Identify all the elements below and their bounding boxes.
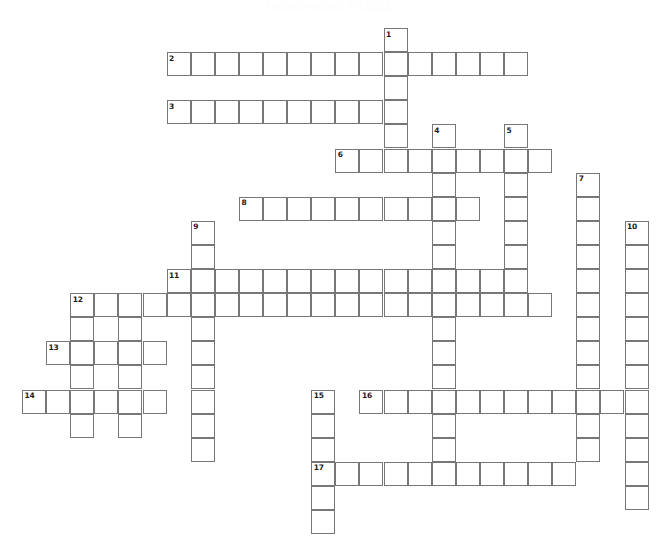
crossword-cell[interactable] xyxy=(335,52,359,76)
crossword-cell[interactable] xyxy=(504,390,528,414)
crossword-cell[interactable] xyxy=(46,390,70,414)
crossword-cell[interactable] xyxy=(408,149,432,173)
crossword-cell[interactable] xyxy=(239,269,263,293)
crossword-cell[interactable] xyxy=(432,173,456,197)
crossword-cell[interactable]: 16 xyxy=(359,390,383,414)
crossword-cell[interactable] xyxy=(287,293,311,317)
crossword-cell[interactable] xyxy=(480,293,504,317)
crossword-cell[interactable] xyxy=(143,293,167,317)
crossword-cell[interactable] xyxy=(287,269,311,293)
crossword-cell[interactable] xyxy=(480,462,504,486)
crossword-cell[interactable] xyxy=(94,341,118,365)
crossword-cell[interactable] xyxy=(432,317,456,341)
crossword-cell[interactable] xyxy=(552,390,576,414)
crossword-cell[interactable] xyxy=(456,293,480,317)
crossword-cell[interactable] xyxy=(456,462,480,486)
crossword-cell[interactable] xyxy=(118,414,142,438)
crossword-cell[interactable] xyxy=(576,438,600,462)
crossword-cell[interactable] xyxy=(311,486,335,510)
crossword-cell[interactable] xyxy=(408,269,432,293)
crossword-cell[interactable] xyxy=(191,100,215,124)
crossword-cell[interactable] xyxy=(359,462,383,486)
crossword-cell[interactable] xyxy=(576,414,600,438)
crossword-cell[interactable] xyxy=(359,269,383,293)
crossword-cell[interactable] xyxy=(456,269,480,293)
crossword-cell[interactable] xyxy=(384,149,408,173)
crossword-cell[interactable] xyxy=(263,293,287,317)
crossword-cell[interactable] xyxy=(432,245,456,269)
crossword-cell[interactable] xyxy=(384,390,408,414)
crossword-cell[interactable] xyxy=(118,341,142,365)
crossword-cell[interactable]: 2 xyxy=(167,52,191,76)
crossword-cell[interactable] xyxy=(215,52,239,76)
crossword-cell[interactable] xyxy=(311,510,335,534)
crossword-cell[interactable] xyxy=(576,390,600,414)
crossword-cell[interactable] xyxy=(335,462,359,486)
crossword-cell[interactable] xyxy=(504,173,528,197)
crossword-cell[interactable] xyxy=(528,390,552,414)
crossword-cell[interactable] xyxy=(432,390,456,414)
crossword-cell[interactable] xyxy=(576,317,600,341)
crossword-cell[interactable] xyxy=(480,390,504,414)
crossword-cell[interactable]: 11 xyxy=(167,269,191,293)
crossword-cell[interactable] xyxy=(335,100,359,124)
crossword-cell[interactable] xyxy=(408,197,432,221)
crossword-cell[interactable] xyxy=(239,293,263,317)
crossword-cell[interactable] xyxy=(432,52,456,76)
crossword-grid[interactable]: 1234567891011121314151617 xyxy=(0,0,659,540)
crossword-cell[interactable] xyxy=(480,52,504,76)
crossword-cell[interactable] xyxy=(263,100,287,124)
crossword-cell[interactable] xyxy=(311,293,335,317)
crossword-cell[interactable] xyxy=(94,390,118,414)
crossword-cell[interactable] xyxy=(263,197,287,221)
crossword-cell[interactable] xyxy=(504,269,528,293)
crossword-cell[interactable] xyxy=(215,269,239,293)
crossword-cell[interactable] xyxy=(239,100,263,124)
crossword-cell[interactable] xyxy=(167,293,191,317)
crossword-cell[interactable] xyxy=(384,197,408,221)
crossword-cell[interactable] xyxy=(625,462,649,486)
crossword-cell[interactable] xyxy=(432,269,456,293)
crossword-cell[interactable] xyxy=(384,462,408,486)
crossword-cell[interactable]: 9 xyxy=(191,221,215,245)
crossword-cell[interactable] xyxy=(625,341,649,365)
crossword-cell[interactable] xyxy=(576,245,600,269)
crossword-cell[interactable] xyxy=(191,414,215,438)
crossword-cell[interactable] xyxy=(432,197,456,221)
crossword-cell[interactable] xyxy=(191,365,215,389)
crossword-cell[interactable] xyxy=(456,197,480,221)
crossword-cell[interactable] xyxy=(70,365,94,389)
crossword-cell[interactable] xyxy=(359,100,383,124)
crossword-cell[interactable] xyxy=(70,317,94,341)
crossword-cell[interactable] xyxy=(215,293,239,317)
crossword-cell[interactable] xyxy=(287,52,311,76)
crossword-cell[interactable]: 14 xyxy=(22,390,46,414)
crossword-cell[interactable] xyxy=(287,197,311,221)
crossword-cell[interactable] xyxy=(480,269,504,293)
crossword-cell[interactable]: 12 xyxy=(70,293,94,317)
crossword-cell[interactable]: 17 xyxy=(311,462,335,486)
crossword-cell[interactable] xyxy=(311,414,335,438)
crossword-cell[interactable] xyxy=(504,221,528,245)
crossword-cell[interactable] xyxy=(625,365,649,389)
crossword-cell[interactable] xyxy=(432,365,456,389)
crossword-cell[interactable]: 6 xyxy=(335,149,359,173)
crossword-cell[interactable] xyxy=(143,390,167,414)
crossword-cell[interactable]: 4 xyxy=(432,124,456,148)
crossword-cell[interactable] xyxy=(408,390,432,414)
crossword-cell[interactable] xyxy=(311,269,335,293)
crossword-cell[interactable] xyxy=(576,365,600,389)
crossword-cell[interactable] xyxy=(191,269,215,293)
crossword-cell[interactable] xyxy=(191,245,215,269)
crossword-cell[interactable] xyxy=(432,462,456,486)
crossword-cell[interactable] xyxy=(359,52,383,76)
crossword-cell[interactable] xyxy=(191,390,215,414)
crossword-cell[interactable] xyxy=(625,269,649,293)
crossword-cell[interactable] xyxy=(335,269,359,293)
crossword-cell[interactable] xyxy=(191,52,215,76)
crossword-cell[interactable] xyxy=(118,317,142,341)
crossword-cell[interactable] xyxy=(215,100,239,124)
crossword-cell[interactable]: 8 xyxy=(239,197,263,221)
crossword-cell[interactable] xyxy=(384,293,408,317)
crossword-cell[interactable] xyxy=(456,52,480,76)
